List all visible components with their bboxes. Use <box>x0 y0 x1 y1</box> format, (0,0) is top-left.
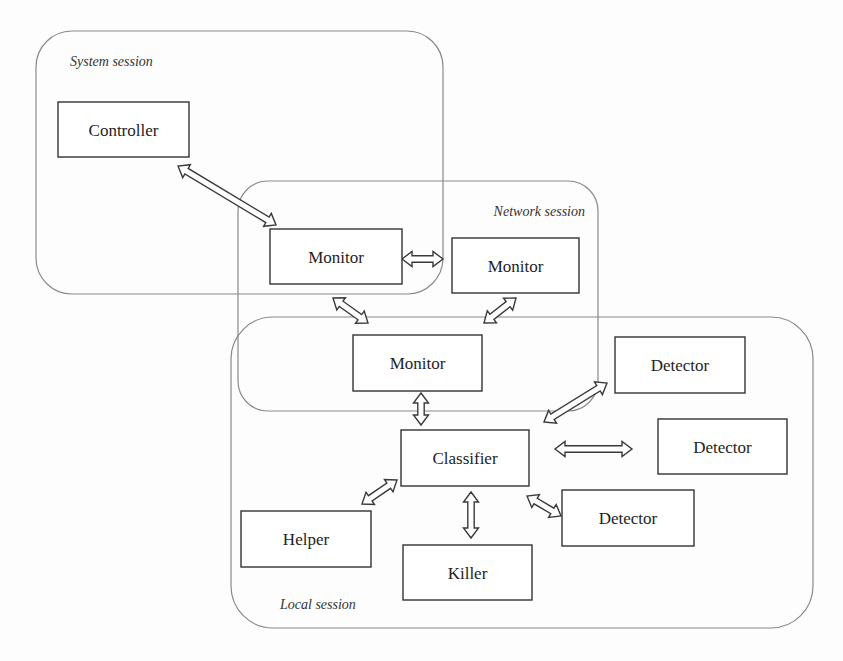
node-killer-label: Killer <box>448 564 488 583</box>
node-detector-1-label: Detector <box>651 356 710 375</box>
arrow-classifier-detector3 <box>527 495 561 518</box>
node-detector-2[interactable]: Detector <box>658 419 787 474</box>
arrow-monitor3-classifier <box>414 393 429 425</box>
arrow-classifier-helper <box>362 480 397 505</box>
diagram-svg: System session Network session Local ses… <box>0 0 843 661</box>
arrow-controller-monitor1 <box>178 165 276 227</box>
arrow-classifier-detector2 <box>555 442 632 457</box>
node-killer[interactable]: Killer <box>403 545 532 600</box>
arrow-monitor2-monitor3 <box>484 298 516 323</box>
node-monitor-local[interactable]: Monitor <box>353 335 482 391</box>
node-helper[interactable]: Helper <box>241 511 371 567</box>
session-system-label: System session <box>70 54 153 69</box>
node-monitor-local-label: Monitor <box>390 354 446 373</box>
node-detector-3[interactable]: Detector <box>562 490 694 546</box>
node-detector-1[interactable]: Detector <box>615 337 745 393</box>
session-network-label: Network session <box>493 204 585 219</box>
node-monitor-system-label: Monitor <box>308 248 364 267</box>
node-monitor-system[interactable]: Monitor <box>270 229 402 284</box>
diagram-canvas: System session Network session Local ses… <box>0 0 843 661</box>
node-helper-label: Helper <box>283 530 330 549</box>
arrow-monitor1-monitor3 <box>333 298 368 324</box>
node-controller-label: Controller <box>89 121 159 140</box>
arrow-classifier-killer <box>464 492 479 538</box>
node-controller[interactable]: Controller <box>58 102 189 157</box>
node-detector-2-label: Detector <box>693 438 752 457</box>
node-classifier-label: Classifier <box>432 449 497 468</box>
node-monitor-network[interactable]: Monitor <box>452 238 579 293</box>
node-detector-3-label: Detector <box>599 509 658 528</box>
arrow-classifier-detector1 <box>544 382 607 423</box>
node-classifier[interactable]: Classifier <box>401 430 529 486</box>
arrow-monitor1-monitor2 <box>402 252 443 267</box>
session-local-label: Local session <box>279 597 356 612</box>
node-monitor-network-label: Monitor <box>488 257 544 276</box>
